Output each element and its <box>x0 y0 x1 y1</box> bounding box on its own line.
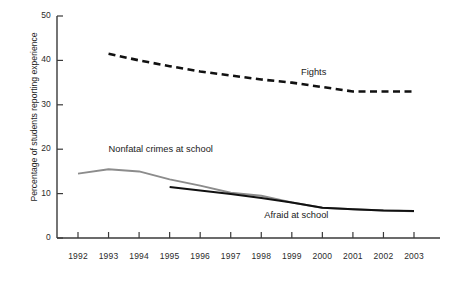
x-axis-tick-label: 2002 <box>366 251 400 261</box>
y-axis-tick-label: 0 <box>29 232 51 242</box>
series-annotation-label: Fights <box>301 67 326 77</box>
series-annotation-label: Nonfatal crimes at school <box>109 144 213 154</box>
x-axis-tick-label: 1995 <box>153 251 187 261</box>
series-line-fights <box>109 54 414 92</box>
x-axis-tick-label: 2001 <box>336 251 370 261</box>
x-axis-tick-label: 1996 <box>183 251 217 261</box>
chart-container: Percentage of students reporting experie… <box>0 0 452 283</box>
y-axis-tick-label: 50 <box>29 10 51 20</box>
chart-plot-area <box>0 0 452 283</box>
y-axis-tick-label: 20 <box>29 143 51 153</box>
x-axis-tick-label: 1992 <box>61 251 95 261</box>
x-axis-tick-label: 2000 <box>305 251 339 261</box>
series-annotation-label: Afraid at school <box>264 210 328 220</box>
series-line-afraid-at-school <box>170 187 414 211</box>
x-axis-tick-label: 1994 <box>122 251 156 261</box>
x-axis-tick-label: 1993 <box>92 251 126 261</box>
series-line-nonfatal-crimes-at-school <box>78 169 414 211</box>
y-axis-tick-label: 10 <box>29 188 51 198</box>
y-axis-tick-label: 40 <box>29 54 51 64</box>
x-axis-tick-label: 1997 <box>214 251 248 261</box>
x-axis-tick-label: 1998 <box>244 251 278 261</box>
y-axis-tick-label: 30 <box>29 99 51 109</box>
x-axis-tick-label: 1999 <box>275 251 309 261</box>
x-axis-tick-label: 2003 <box>397 251 431 261</box>
